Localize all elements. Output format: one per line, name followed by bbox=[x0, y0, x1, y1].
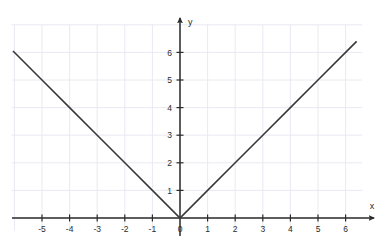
x-tick-label: 6 bbox=[343, 224, 348, 234]
x-tick-label: 4 bbox=[288, 224, 293, 234]
chart-container: -5-4-3-2-10123456123456 xy bbox=[0, 0, 387, 245]
absolute-value-plot: -5-4-3-2-10123456123456 xy bbox=[0, 0, 387, 245]
x-tick-label: 1 bbox=[205, 224, 210, 234]
y-tick-label: 6 bbox=[167, 48, 172, 58]
x-tick-label: -1 bbox=[149, 224, 157, 234]
x-tick-label: 0 bbox=[178, 224, 183, 234]
y-tick-label: 5 bbox=[167, 75, 172, 85]
x-tick-label: 3 bbox=[260, 224, 265, 234]
y-tick-label: 4 bbox=[167, 103, 172, 113]
x-tick-label: -3 bbox=[93, 224, 101, 234]
plot-background bbox=[0, 0, 387, 245]
y-tick-label: 3 bbox=[167, 130, 172, 140]
y-tick-label: 1 bbox=[167, 186, 172, 196]
x-tick-label: -5 bbox=[38, 224, 46, 234]
x-tick-label: 5 bbox=[316, 224, 321, 234]
x-axis-name: x bbox=[370, 201, 375, 211]
x-tick-label: -2 bbox=[121, 224, 129, 234]
x-tick-label: -4 bbox=[66, 224, 74, 234]
y-axis-name: y bbox=[188, 17, 193, 27]
y-tick-label: 2 bbox=[167, 158, 172, 168]
x-tick-label: 2 bbox=[233, 224, 238, 234]
